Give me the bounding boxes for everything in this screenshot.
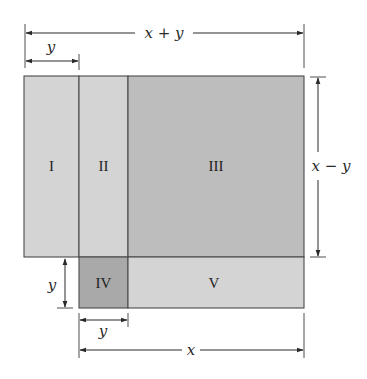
geometric-area-diagram: I II III IV V x + y y x − y: [0, 0, 367, 379]
dimension-right-height: x − y: [310, 77, 351, 257]
region-V-label: V: [209, 275, 220, 291]
dimension-label-x: x: [187, 341, 196, 359]
dimension-label-x-minus-y: x − y: [311, 157, 351, 175]
region-III: III: [128, 76, 304, 257]
region-V: V: [128, 257, 304, 308]
region-IV-label: IV: [96, 275, 112, 291]
region-I: I: [24, 76, 79, 257]
dimension-label-x-plus-y: x + y: [144, 24, 184, 42]
dimension-label-y-left: y: [47, 276, 57, 294]
region-III-label: III: [209, 158, 224, 174]
region-II-label: II: [99, 158, 109, 174]
region-I-label: I: [49, 158, 54, 174]
dimension-label-y-bottom: y: [98, 322, 108, 340]
region-IV: IV: [79, 257, 128, 308]
region-II: II: [79, 76, 128, 257]
dimension-label-y-top: y: [46, 38, 56, 56]
dimension-bottom-small: y: [79, 313, 128, 358]
dimension-left-small: y: [47, 259, 73, 308]
dimension-top-left: y: [26, 38, 79, 70]
